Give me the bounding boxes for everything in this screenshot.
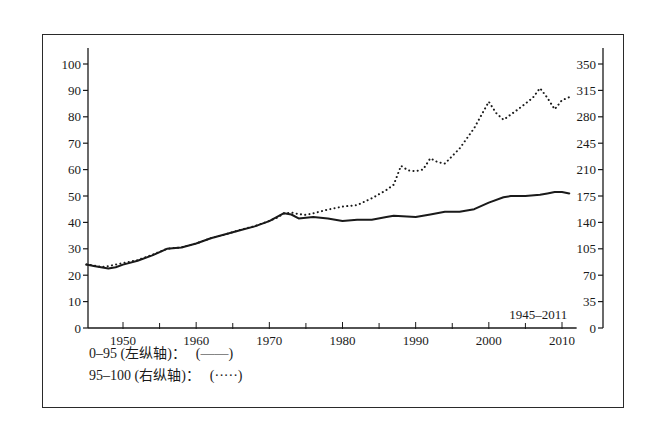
x-tick-label: 2010 (549, 333, 575, 348)
left-y-tick-label: 50 (68, 189, 81, 204)
left-y-tick-label: 100 (62, 57, 82, 72)
x-tick-label: 1980 (330, 333, 356, 348)
period-annotation: 1945–2011 (509, 307, 567, 322)
series-95-100-line (86, 88, 569, 267)
x-tick-label: 1970 (256, 333, 282, 348)
right-y-tick-label: 140 (577, 215, 597, 230)
x-tick-label: 1990 (403, 333, 429, 348)
right-y-tick-label: 315 (577, 83, 597, 98)
series-0-95-line (86, 192, 569, 269)
x-tick-label: 2000 (476, 333, 502, 348)
legend-item-dotted: 95–100 (右纵轴)：(·····) (89, 364, 242, 384)
left-y-tick-label: 70 (68, 136, 81, 151)
solid-line-symbol-icon: (——) (196, 346, 233, 361)
legend-label-solid: 0–95 (左纵轴)： (89, 346, 186, 361)
left-y-tick-label: 30 (68, 241, 81, 256)
left-y-tick-label: 0 (75, 321, 82, 336)
dotted-line-symbol-icon: (·····) (210, 368, 243, 383)
left-y-tick-label: 10 (68, 294, 81, 309)
right-y-tick-label: 0 (590, 321, 597, 336)
left-y-tick-label: 40 (68, 215, 81, 230)
right-y-tick-label: 245 (577, 136, 597, 151)
left-y-tick-label: 20 (68, 268, 81, 283)
left-y-tick-label: 80 (68, 109, 81, 124)
legend-item-solid: 0–95 (左纵轴)：(——) (89, 342, 233, 362)
left-y-tick-label: 90 (68, 83, 81, 98)
left-y-tick-label: 60 (68, 162, 81, 177)
right-y-tick-label: 280 (577, 109, 597, 124)
right-y-tick-label: 35 (583, 294, 596, 309)
right-y-tick-label: 210 (577, 162, 597, 177)
right-y-tick-label: 105 (577, 241, 597, 256)
right-y-tick-label: 350 (577, 57, 597, 72)
right-y-tick-label: 70 (583, 268, 596, 283)
right-y-tick-label: 175 (577, 189, 597, 204)
legend-label-dotted: 95–100 (右纵轴)： (89, 368, 200, 383)
